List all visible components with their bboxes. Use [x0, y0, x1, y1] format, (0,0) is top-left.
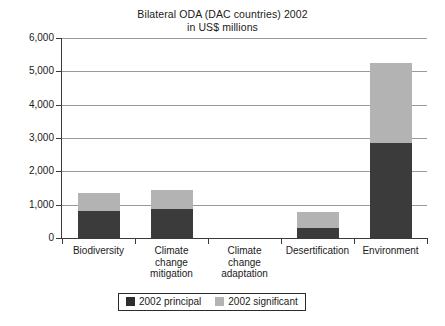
y-axis-tick-label: 5,000 — [0, 66, 54, 76]
y-axis-tick-label: 2,000 — [0, 166, 54, 176]
x-axis-label-line: change — [208, 257, 281, 269]
bar-segment-significant — [151, 190, 193, 209]
bar-environment — [370, 63, 412, 238]
x-axis-tick-mark — [62, 238, 63, 244]
x-axis-tick-mark — [354, 238, 355, 244]
legend-item: 2002 significant — [215, 296, 298, 307]
bar-biodiversity — [78, 193, 120, 238]
x-axis-label-line: adaptation — [208, 268, 281, 280]
bar-segment-significant — [370, 63, 412, 143]
x-axis-label-line: Climate — [135, 245, 208, 257]
chart-title-block: Bilateral ODA (DAC countries) 2002 in US… — [0, 8, 445, 34]
x-axis-label-environment: Environment — [354, 245, 427, 257]
x-axis-label-line: Desertification — [281, 245, 354, 257]
gridline — [62, 38, 427, 39]
x-axis-tick-mark — [208, 238, 209, 244]
x-axis-label-line: Environment — [354, 245, 427, 257]
y-axis-line — [61, 38, 62, 239]
x-axis-category-labels: BiodiversityClimatechangemitigationClima… — [62, 245, 427, 291]
bar-segment-significant — [297, 212, 339, 228]
y-axis-tick-label: 3,000 — [0, 133, 54, 143]
y-axis-tick-label: 1,000 — [0, 200, 54, 210]
x-axis-tick-mark — [281, 238, 282, 244]
legend-label: 2002 significant — [228, 296, 298, 307]
plot-area — [62, 38, 427, 238]
x-axis-label-climate-change-mitigation: Climatechangemitigation — [135, 245, 208, 280]
y-axis-tick-label: 4,000 — [0, 100, 54, 110]
bar-segment-significant — [78, 193, 120, 211]
x-axis-tick-mark — [427, 238, 428, 244]
x-axis-label-climate-change-adaptation: Climatechangeadaptation — [208, 245, 281, 280]
x-axis-label-desertification: Desertification — [281, 245, 354, 257]
bar-desertification — [297, 212, 339, 238]
chart-legend: 2002 principal2002 significant — [118, 293, 306, 311]
chart-subtitle: in US$ millions — [0, 21, 445, 34]
bar-segment-principal — [370, 143, 412, 238]
x-axis-label-line: Biodiversity — [62, 245, 135, 257]
legend-swatch-icon — [126, 297, 135, 306]
bar-climate-change-mitigation — [151, 190, 193, 238]
bar-segment-principal — [297, 228, 339, 238]
bar-segment-principal — [151, 209, 193, 238]
y-axis-tick-label: 0 — [0, 233, 54, 243]
x-axis-label-line: change — [135, 257, 208, 269]
x-axis-line — [62, 238, 427, 239]
y-axis-tick-label: 6,000 — [0, 33, 54, 43]
x-axis-label-line: Climate — [208, 245, 281, 257]
legend-item: 2002 principal — [126, 296, 201, 307]
legend-label: 2002 principal — [139, 296, 201, 307]
chart-title: Bilateral ODA (DAC countries) 2002 — [0, 8, 445, 21]
bar-segment-principal — [78, 211, 120, 238]
x-axis-label-biodiversity: Biodiversity — [62, 245, 135, 257]
x-axis-label-line: mitigation — [135, 268, 208, 280]
chart-container: Bilateral ODA (DAC countries) 2002 in US… — [0, 0, 445, 326]
x-axis-tick-mark — [135, 238, 136, 244]
legend-swatch-icon — [215, 297, 224, 306]
